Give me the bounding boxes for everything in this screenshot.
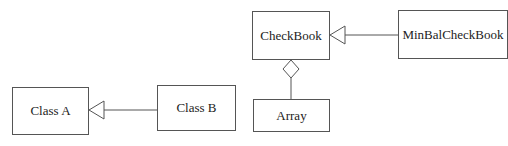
array-box[interactable]: Array	[253, 99, 330, 132]
array-label: Array	[276, 108, 306, 124]
aggregation-diamond-icon	[283, 60, 299, 78]
inheritance-arrow-icon	[89, 101, 104, 119]
checkbook-label: CheckBook	[260, 28, 321, 44]
minbalcheckbook-label: MinBalCheckBook	[402, 27, 503, 43]
checkbook-box[interactable]: CheckBook	[252, 11, 330, 60]
minbalcheckbook-box[interactable]: MinBalCheckBook	[398, 10, 508, 59]
class-b-label: Class B	[176, 100, 216, 116]
class-a-box[interactable]: Class A	[12, 87, 89, 135]
class-a-label: Class A	[30, 103, 70, 119]
class-b-box[interactable]: Class B	[157, 85, 236, 131]
inheritance-arrow-icon	[330, 26, 345, 44]
